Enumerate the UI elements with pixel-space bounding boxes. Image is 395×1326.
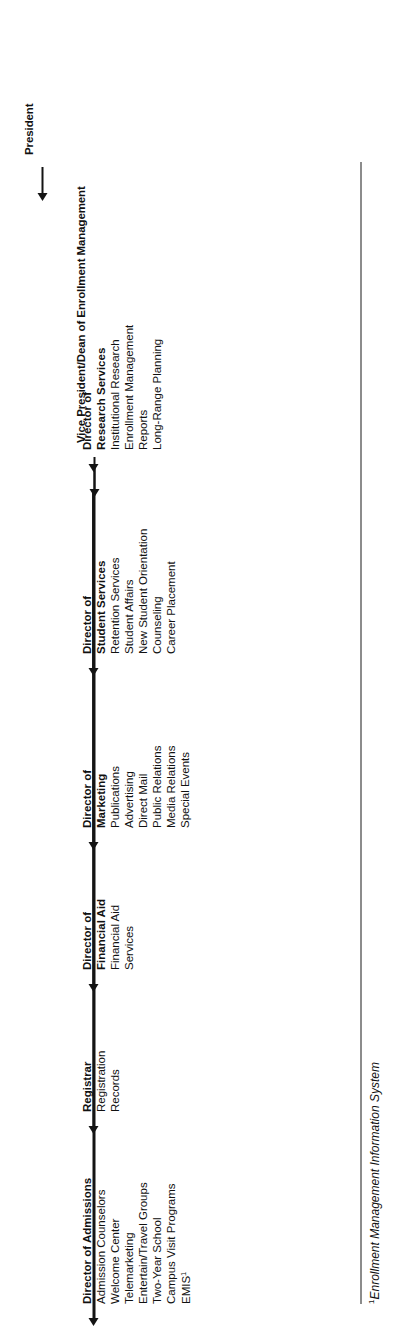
duty-item: Enrollment Management [122, 260, 136, 450]
duty-item: Media Relations [164, 638, 178, 828]
duty-item: Entertain/Travel Groups [136, 1114, 150, 1304]
footnote-marker: 1 [366, 1300, 375, 1304]
duty-item: Career Placement [164, 464, 178, 654]
footnote-divider [360, 162, 361, 1304]
director-title-student-services: Student Services [94, 464, 108, 654]
duty-item: Public Relations [150, 638, 164, 828]
connector-president-to-vp [41, 167, 43, 193]
director-column-admissions: Director of AdmissionsAdmission Counselo… [80, 1114, 194, 1304]
duty-item: Campus Visit Programs [164, 1114, 178, 1304]
arrowhead-president-to-vp [37, 193, 47, 201]
duty-item: Two-Year School [150, 1114, 164, 1304]
arrowhead-admissions [88, 1318, 98, 1326]
duty-item: Retention Services [108, 464, 122, 654]
duty-item: Direct Mail [136, 638, 150, 828]
duty-item: Student Affairs [122, 464, 136, 654]
duty-superscript: 1 [178, 1272, 187, 1276]
duty-item: New Student Orientation [136, 464, 150, 654]
director-title-student-services: Director of [80, 464, 94, 654]
duty-item: EMIS1 [178, 1114, 194, 1304]
duty-item: Reports [136, 260, 150, 450]
duty-item: Special Events [178, 638, 192, 828]
footnote-text: Enrollment Management Information System [367, 1062, 381, 1299]
footnote: 1Enrollment Management Information Syste… [366, 1062, 381, 1304]
duty-item: Publications [108, 638, 122, 828]
duty-item: Advertising [122, 638, 136, 828]
director-title-admissions: Director of Admissions [80, 1114, 94, 1304]
director-column-marketing: Director ofMarketingPublicationsAdvertis… [80, 638, 192, 828]
director-column-research-services: Director ofResearch ServicesInstitutiona… [80, 260, 164, 450]
director-title-research-services: Research Services [94, 260, 108, 450]
duty-item: Telemarketing [122, 1114, 136, 1304]
director-title-marketing: Marketing [94, 638, 108, 828]
duty-item: Admission Counselors [94, 1114, 108, 1304]
director-title-marketing: Director of [80, 638, 94, 828]
duty-item: Counseling [150, 464, 164, 654]
duty-item: Long-Range Planning [150, 260, 164, 450]
duty-item: Welcome Center [108, 1114, 122, 1304]
duty-item: Institutional Research [108, 260, 122, 450]
director-title-research-services: Director of [80, 260, 94, 450]
director-column-student-services: Director ofStudent ServicesRetention Ser… [80, 464, 178, 654]
president-node: President [22, 103, 36, 155]
